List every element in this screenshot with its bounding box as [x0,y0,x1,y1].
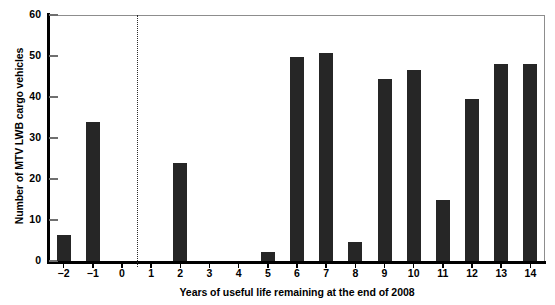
x-axis-tick-label: 14 [510,268,550,280]
bars-layer [49,15,545,261]
bar [290,57,304,261]
bar [319,53,333,261]
bar-chart: Number of MTV LWB cargo vehicles 0102030… [0,0,555,305]
x-axis-ticks: −2−101234567891011121314 [49,264,545,284]
bar [494,64,508,261]
y-axis-tick-label: 10 [1,214,41,225]
bar [436,200,450,261]
bar [465,99,479,261]
y-axis-tick-label: 50 [1,50,41,61]
y-axis-tick-label: 60 [1,9,41,20]
y-axis-tick-label: 40 [1,91,41,102]
bar [261,252,275,261]
bar [523,64,537,261]
reference-line [137,15,138,267]
bar [173,163,187,261]
bar [407,70,421,261]
bar [86,122,100,261]
y-axis-tick-label: 0 [1,255,41,266]
bar [378,79,392,261]
y-axis-tick-label: 20 [1,173,41,184]
bar [57,235,71,261]
x-axis-title: Years of useful life remaining at the en… [49,286,545,298]
y-axis-tick-label: 30 [1,132,41,143]
bar [348,242,362,261]
